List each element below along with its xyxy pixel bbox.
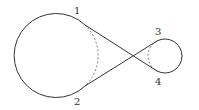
big-circle-arc	[14, 13, 85, 97]
big-circle-dashed-arc	[85, 25, 98, 86]
small-circle-arc	[157, 39, 182, 73]
label-4: 4	[155, 76, 161, 87]
label-3: 3	[155, 26, 161, 37]
tangent-circles-diagram: 1 2 3 4	[0, 0, 199, 110]
label-1: 1	[74, 5, 80, 16]
label-2: 2	[74, 96, 80, 107]
